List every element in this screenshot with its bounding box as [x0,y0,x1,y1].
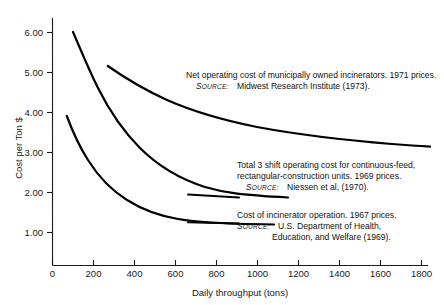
x-axis-tick-labels: 0 200 400 600 800 1000 1200 1400 1600 18… [50,268,432,279]
annotation-3-source-label: SOURCE: [237,222,270,231]
y-tick-label-3: 3.00 [25,147,44,158]
x-tick-label-600: 600 [168,268,184,279]
x-axis-ticks [53,260,422,266]
data-series-group [67,32,430,225]
annotation-1-source-body: Midwest Research Institute (1973). [237,81,370,91]
chart-figure: 6.00 5.00 4.00 3.00 2.00 1.00 0 200 400 … [0,0,444,305]
annotation-3-line1: Cost of incinerator operation. 1967 pric… [237,210,397,220]
annotation-2-source-label: SOURCE: [246,183,279,192]
annotation-leader-lines [188,195,239,224]
annotation-1-source-label: SOURCE: [196,82,229,91]
y-tick-label-2: 2.00 [25,187,44,198]
x-tick-label-1600: 1600 [370,268,391,279]
chart-canvas: 6.00 5.00 4.00 3.00 2.00 1.00 0 200 400 … [0,0,444,305]
x-tick-label-0: 0 [50,268,55,279]
annotation-2-source-body: Niessen et al, (1970). [287,182,369,192]
x-tick-label-1200: 1200 [288,268,309,279]
x-tick-label-1000: 1000 [247,268,268,279]
x-tick-label-800: 800 [209,268,225,279]
y-axis-ticks [47,33,53,233]
y-tick-label-6: 6.00 [25,27,44,38]
annotation-3-source-body: U.S. Department of Health, [278,221,381,231]
annotation-2-line1: Total 3 shift operating cost for continu… [237,160,415,170]
y-tick-label-5: 5.00 [25,67,44,78]
x-tick-label-200: 200 [86,268,102,279]
annotation-3: Cost of incinerator operation. 1967 pric… [237,210,397,242]
annotation-3-source-body-2: Education, and Welfare (1969). [272,232,391,242]
x-tick-label-1400: 1400 [329,268,350,279]
annotation-1-line1: Net operating cost of municipally owned … [186,70,436,80]
x-tick-label-400: 400 [127,268,143,279]
y-axis-tick-labels: 6.00 5.00 4.00 3.00 2.00 1.00 [25,27,44,238]
x-tick-label-1800: 1800 [411,268,432,279]
annotation-1: Net operating cost of municipally owned … [186,70,436,92]
annotation-2: Total 3 shift operating cost for continu… [237,160,415,193]
y-tick-label-1: 1.00 [25,227,44,238]
leader-line-2 [188,195,239,198]
y-axis-title: Cost per Ton $ [13,116,24,178]
leader-line-3 [188,222,239,223]
annotation-2-line2: rectangular-construction units. 1969 pri… [237,171,401,181]
x-axis-title: Daily throughput (tons) [192,287,288,298]
y-tick-label-4: 4.00 [25,107,44,118]
